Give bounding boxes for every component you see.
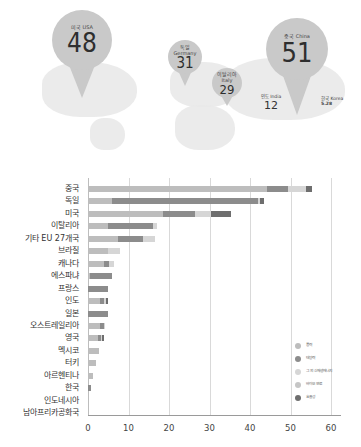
pin-value: 51 [282,39,313,66]
stacked-bar [88,385,91,391]
bar-row: 일본 [0,308,361,320]
bar-segment-solar [267,186,287,192]
bar-segment-solar [163,211,195,217]
world-map: 미국 USA 48 독일 Germany 31 이탈리아 Italy 29 중국… [0,0,361,150]
land-south-america [90,118,125,150]
stacked-bar [88,298,108,304]
x-tick-label: 50 [285,423,296,433]
legend-swatch [295,369,301,375]
bar-segment-solar [112,198,258,204]
stacked-bar [88,236,155,242]
stacked-bar [88,323,105,329]
bar-segment-other_renewables [108,248,120,254]
bar-segment-wind [88,248,108,254]
x-tick-label: 40 [245,423,256,433]
bar-segment-wind [88,198,112,204]
bar-segment-solar [88,385,91,391]
category-label: 남아프리카공화국 [23,407,79,419]
bar-segment-solar [90,273,112,279]
category-label: 인도네시아 [44,395,79,407]
bar-row: 중국 [0,183,361,195]
bar-row: 기타 EU 27개국 [0,233,361,245]
bar-segment-wind [88,373,93,379]
legend-label: 태양력 [306,355,340,360]
legend-item-other_renewables: 그 외 신재생에너지 [295,368,340,375]
category-label: 오스트레일리아 [30,320,79,332]
bar-segment-wind [88,223,108,229]
stacked-bar [88,273,112,279]
x-tick-label: 30 [204,423,215,433]
pin-value: 31 [176,56,193,71]
bar-segment-other_renewables [109,261,114,267]
legend-item-solar: 태양력 [295,355,340,362]
bar-segment-efficiency [106,298,108,304]
bar-row: 남아프리카공화국 [0,407,361,419]
bar-segment-wind [88,360,96,366]
category-label: 프랑스 [58,283,79,295]
legend-label: 효율성 [306,394,340,399]
stacked-bar [88,186,312,192]
bar-segment-wind [88,323,100,329]
bar-segment-other_renewables [288,186,306,192]
bar-segment-wind [88,211,163,217]
category-label: 영국 [65,332,79,344]
category-label: 미국 [65,208,79,220]
stacked-bar [88,261,114,267]
bar-segment-solar [88,286,108,292]
bar-segment-wind [88,298,100,304]
pin-value: 29 [220,83,235,96]
category-label: 중국 [65,183,79,195]
bar-row: 미국 [0,208,361,220]
bar-segment-solar [118,236,142,242]
bar-segment-wind [88,335,98,341]
x-tick-label: 0 [85,423,90,433]
stacked-bar [88,360,96,366]
category-label: 기타 EU 27개국 [25,233,79,245]
category-label: 독일 [65,195,79,207]
stacked-bar [88,286,108,292]
bar-segment-efficiency [102,335,104,341]
category-label: 브라질 [58,245,79,257]
map-label-korea: 한국 Korea 5.28 [321,95,357,106]
bar-segment-solar [108,223,153,229]
legend-swatch [295,343,301,349]
bar-row: 브라질 [0,245,361,257]
stacked-bar [88,198,264,204]
stacked-bar [88,223,157,229]
chart-legend: 풍력태양력그 외 신재생에너지바이오 연료효율성 [295,342,340,407]
bar-segment-other_renewables [195,211,211,217]
bar-segment-efficiency [260,198,264,204]
legend-label: 풍력 [306,342,340,347]
stacked-bar [88,335,104,341]
stacked-bar [88,348,99,354]
category-label: 아르헨티나 [44,370,79,382]
stacked-bar [88,373,93,379]
bar-row: 독일 [0,195,361,207]
bar-segment-other_renewables [143,236,155,242]
bar-row: 에스파냐 [0,270,361,282]
bar-row: 오스트레일리아 [0,320,361,332]
category-label: 일본 [65,308,79,320]
bar-row: 인도 [0,295,361,307]
stacked-bar [88,211,231,217]
bar-segment-efficiency [211,211,231,217]
x-tick-label: 20 [164,423,175,433]
stacked-bar [88,248,120,254]
category-label: 에스파냐 [51,270,79,282]
bar-segment-other_renewables [153,223,157,229]
x-tick-label: 60 [326,423,337,433]
legend-item-efficiency: 효율성 [295,394,340,401]
bar-segment-efficiency [306,186,312,192]
category-label: 이탈리아 [51,220,79,232]
bar-segment-wind [88,236,118,242]
bar-row: 이탈리아 [0,220,361,232]
legend-swatch [295,382,301,388]
category-label: 한국 [65,382,79,394]
category-label: 터키 [65,357,79,369]
bar-segment-wind [88,261,104,267]
legend-label: 그 외 신재생에너지 [306,368,340,373]
x-tick-label: 10 [123,423,134,433]
bar-segment-other_renewables [104,323,105,329]
legend-label: 바이오 연료 [306,381,340,386]
stacked-bar-chart: 0102030405060 중국독일미국이탈리아기타 EU 27개국브라질캐나다… [0,150,361,447]
